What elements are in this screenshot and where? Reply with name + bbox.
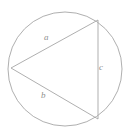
triangle-side-b [11, 68, 98, 119]
side-label-b: b [41, 91, 46, 100]
side-label-a: a [44, 33, 49, 42]
side-label-c: c [99, 63, 103, 72]
triangle-side-a [11, 20, 98, 68]
circumscribed-circle [8, 12, 122, 126]
geometry-canvas [0, 0, 132, 136]
geometry-figure: a b c [0, 0, 132, 136]
